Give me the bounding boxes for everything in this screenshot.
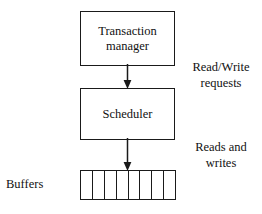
buffer-cell: [117, 171, 129, 199]
scheduler-label: Scheduler: [99, 107, 157, 122]
transaction-manager-node: Transaction manager: [80, 11, 175, 66]
buffer-cell: [140, 171, 152, 199]
buffer-cell: [105, 171, 117, 199]
arrow-scheduler-to-buffers: [119, 138, 137, 172]
arrow-transaction-manager-to-scheduler: [119, 64, 137, 90]
buffer-cell: [152, 171, 164, 199]
buffers-caption: Buffers: [6, 177, 74, 193]
scheduler-node: Scheduler: [80, 88, 175, 140]
buffers-node: [80, 170, 176, 200]
read-write-requests-annotation: Read/Write requests: [182, 60, 260, 91]
buffer-cell: [81, 171, 93, 199]
buffer-cell: [93, 171, 105, 199]
buffer-cell: [129, 171, 141, 199]
buffer-cell: [164, 171, 175, 199]
transaction-manager-label: Transaction manager: [94, 24, 161, 54]
reads-and-writes-annotation: Reads and writes: [182, 140, 260, 171]
diagram-canvas: Transaction manager Scheduler Buffers Re…: [0, 0, 262, 214]
